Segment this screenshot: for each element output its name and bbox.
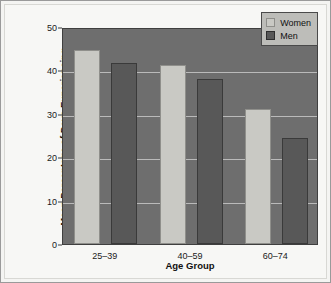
y-tick-label: 40 bbox=[47, 66, 57, 76]
figure-frame: Mean Percentage of Days Experiencing Dai… bbox=[0, 0, 331, 283]
y-tick-label: 50 bbox=[47, 23, 57, 33]
legend-swatch-men-icon bbox=[266, 31, 275, 40]
legend-swatch-women-icon bbox=[266, 18, 275, 27]
legend-item-women: Women bbox=[266, 16, 311, 29]
legend-label-women: Women bbox=[280, 18, 311, 28]
x-axis-ticks: 25–3940–5960–74 bbox=[62, 28, 318, 245]
legend-item-men: Men bbox=[266, 29, 311, 42]
legend-label-men: Men bbox=[280, 31, 298, 41]
figure-inner-frame: Mean Percentage of Days Experiencing Dai… bbox=[4, 4, 327, 279]
chart-legend: Women Men bbox=[261, 12, 318, 46]
y-tick-label: 30 bbox=[47, 110, 57, 120]
y-axis-title: Mean Percentage of Days Experiencing Dai… bbox=[15, 28, 37, 245]
y-tick-label: 20 bbox=[47, 153, 57, 163]
x-axis-title: Age Group bbox=[62, 260, 318, 271]
y-tick-label: 0 bbox=[52, 240, 57, 250]
y-tick-label: 10 bbox=[47, 197, 57, 207]
